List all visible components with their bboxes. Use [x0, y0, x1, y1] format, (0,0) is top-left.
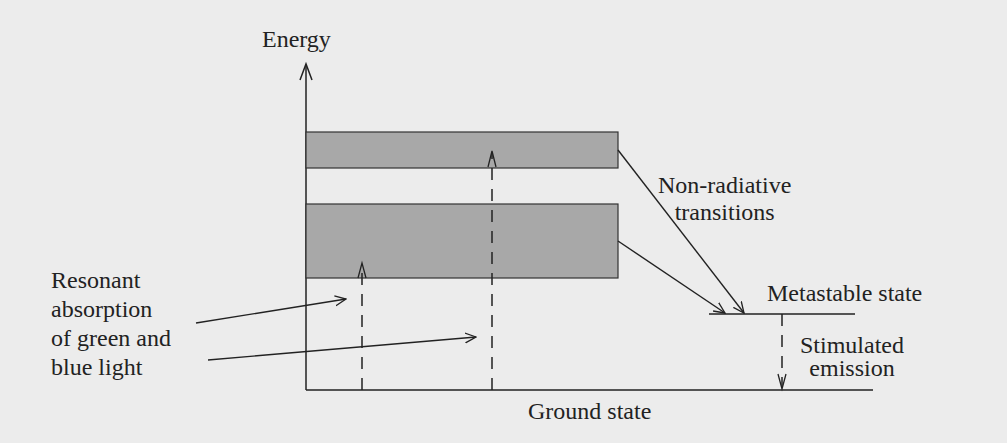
- absorption-pointer-blue: [208, 337, 476, 360]
- stimulated-emission-label: Stimulated emission: [800, 334, 904, 380]
- absorption-label: Resonant absorption of green and blue li…: [51, 266, 171, 382]
- ground-state-label: Ground state: [528, 398, 651, 424]
- metastable-state-label: Metastable state: [767, 280, 922, 306]
- upper-band: [306, 132, 618, 168]
- absorption-pointer-green: [196, 299, 346, 323]
- lower-band: [306, 204, 618, 278]
- energy-axis-label: Energy: [262, 26, 331, 52]
- non-radiative-arrow-lower: [618, 241, 725, 313]
- non-radiative-label: Non-radiative transitions: [658, 172, 791, 226]
